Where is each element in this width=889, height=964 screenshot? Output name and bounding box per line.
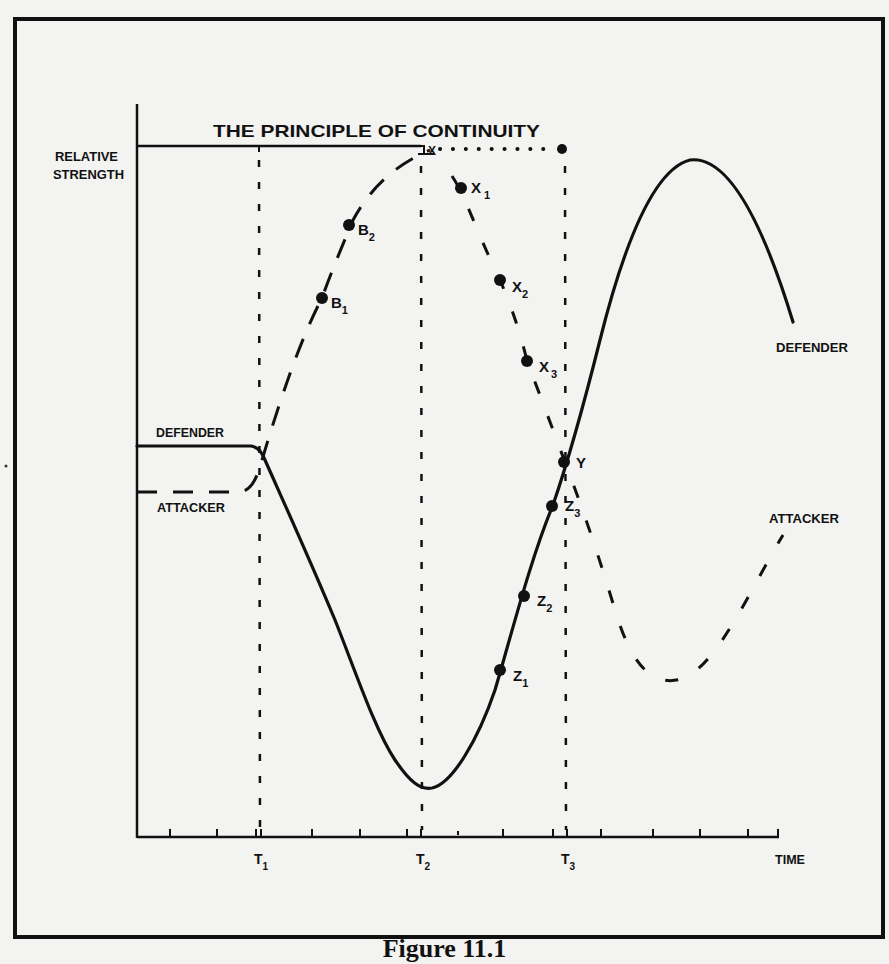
t1-reference-line (259, 160, 260, 830)
attacker-start-label: ATTACKER (157, 500, 226, 515)
svg-text:X1: X1 (471, 179, 490, 201)
y-axis-label-line2: STRENGTH (53, 168, 124, 182)
point-x3 (521, 355, 533, 367)
stray-ink-dot (5, 465, 8, 468)
figure-caption: Figure 11.1 (0, 934, 889, 964)
point-b2 (343, 219, 355, 231)
svg-text:B2: B2 (358, 221, 375, 243)
svg-text:X3: X3 (539, 358, 557, 380)
time-reference-lines (259, 160, 566, 830)
svg-text:Z1: Z1 (513, 667, 528, 689)
x-axis-label: TIME (775, 852, 805, 867)
svg-text:Z2: Z2 (537, 592, 552, 614)
svg-text:B1: B1 (331, 294, 348, 316)
culmination-end-point (557, 144, 567, 154)
point-b1 (316, 292, 328, 304)
point-z3 (546, 500, 558, 512)
figure-frame (15, 19, 883, 937)
svg-text:Y: Y (576, 454, 586, 471)
t1-label: T1 (254, 851, 269, 872)
y-axis-label-line1: RELATIVE (55, 150, 118, 164)
t2-reference-line (421, 166, 422, 830)
time-marker-labels: T1 T2 T3 (254, 851, 576, 872)
attacker-end-label: ATTACKER (769, 511, 840, 526)
attacker-curve-decline (452, 176, 783, 681)
point-y (558, 456, 570, 468)
point-x2 (494, 274, 506, 286)
svg-text:X: X (428, 144, 436, 158)
point-z2 (518, 590, 530, 602)
svg-text:Z3: Z3 (565, 497, 580, 519)
point-z1 (494, 664, 506, 676)
svg-text:X2: X2 (512, 278, 528, 300)
defender-start-label: DEFENDER (156, 425, 225, 440)
point-x1 (455, 182, 467, 194)
curve-points (316, 182, 570, 676)
defender-curve (137, 160, 793, 789)
figure-title: THE PRINCIPLE OF CONTINUITY (213, 122, 541, 141)
t3-label: T3 (561, 851, 576, 872)
t2-label: T2 (416, 851, 431, 872)
attacker-curve (137, 150, 430, 492)
defender-end-label: DEFENDER (776, 340, 849, 355)
